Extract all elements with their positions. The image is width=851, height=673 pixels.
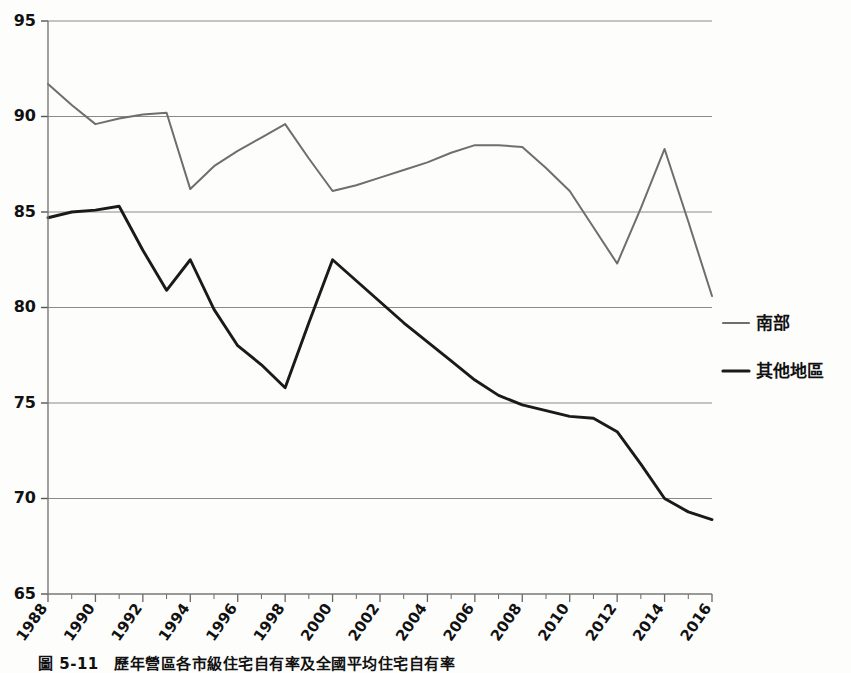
x-tick-label-2016: 2016: [677, 600, 716, 645]
figure-container: 65707580859095 1988199019921994199619982…: [0, 0, 851, 673]
line-chart: 65707580859095 1988199019921994199619982…: [0, 0, 851, 673]
data-series-group: [48, 84, 712, 519]
x-tick-label-2012: 2012: [582, 600, 621, 645]
y-tick-label-85: 85: [14, 202, 36, 221]
y-tick-label-80: 80: [14, 297, 36, 316]
y-axis-labels-group: 65707580859095: [14, 11, 36, 603]
y-tick-label-65: 65: [14, 584, 36, 603]
x-tick-label-2000: 2000: [297, 600, 336, 645]
x-axis-labels-group: 1988199019921994199619982000200220042006…: [13, 600, 716, 645]
y-tick-label-90: 90: [14, 106, 36, 125]
x-tick-label-1996: 1996: [202, 600, 241, 645]
y-tick-label-95: 95: [14, 11, 36, 30]
x-tick-label-2002: 2002: [345, 600, 384, 645]
legend-label-2: 其他地區: [756, 361, 824, 381]
series-line-2: [48, 206, 712, 519]
legend-label-1: 南部: [756, 313, 790, 333]
x-tick-label-1998: 1998: [250, 600, 289, 645]
y-tick-label-75: 75: [14, 393, 36, 412]
x-axis-ticks-group: [48, 594, 712, 602]
y-axis-ticks-group: [41, 21, 48, 594]
y-tick-label-70: 70: [14, 488, 36, 507]
x-tick-label-2004: 2004: [392, 600, 431, 645]
chart-legend: 南部其他地區: [723, 313, 824, 381]
x-tick-label-1992: 1992: [107, 600, 146, 645]
figure-caption: 圖 5-11 歷年營區各市級住宅自有率及全國平均住宅自有率: [38, 652, 818, 673]
x-tick-label-1990: 1990: [60, 600, 99, 645]
series-line-1: [48, 84, 712, 296]
x-tick-label-2006: 2006: [439, 600, 478, 645]
x-tick-label-2010: 2010: [534, 600, 573, 645]
x-tick-label-2014: 2014: [629, 600, 668, 645]
x-tick-label-1988: 1988: [13, 600, 52, 645]
x-tick-label-2008: 2008: [487, 600, 526, 645]
x-tick-label-1994: 1994: [155, 600, 194, 645]
